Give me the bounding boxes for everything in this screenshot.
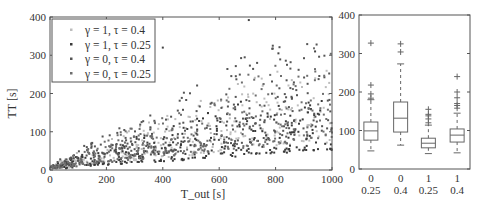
legend-marker-icon xyxy=(70,43,73,46)
category-label-tau: 0.4 xyxy=(394,184,408,196)
category-label-gamma: 1 xyxy=(454,172,460,184)
category-label-gamma: 0 xyxy=(398,172,404,184)
x-tick-label: 400 xyxy=(155,173,172,185)
box-plot: 00.2500.410.2510.40100200300400 xyxy=(339,9,471,196)
box xyxy=(421,106,435,153)
y-tick-label: 100 xyxy=(30,126,47,138)
legend-marker-icon xyxy=(70,29,73,32)
category-label-tau: 0.25 xyxy=(419,184,439,196)
outlier-marker-icon xyxy=(454,89,460,95)
legend-label: γ = 0, τ = 0.4 xyxy=(84,53,145,66)
outlier-marker-icon xyxy=(368,40,374,46)
outlier-marker-icon xyxy=(454,95,460,101)
outlier-marker-icon xyxy=(368,91,374,97)
legend-label: γ = 0, τ = 0.25 xyxy=(84,68,151,81)
x-tick-label: 0 xyxy=(47,173,53,185)
legend-marker-icon xyxy=(70,58,73,61)
box xyxy=(394,41,408,145)
legend-label: γ = 1, τ = 0.4 xyxy=(84,24,145,37)
y-tick-label: 200 xyxy=(30,88,47,100)
scatter-plot: 020040060080010000100200300400T_out [s]T… xyxy=(5,11,344,201)
x-tick-label: 600 xyxy=(211,173,228,185)
legend: γ = 1, τ = 0.4γ = 1, τ = 0.25γ = 0, τ = … xyxy=(52,19,155,82)
legend-label: γ = 1, τ = 0.25 xyxy=(84,39,151,52)
category-label-gamma: 1 xyxy=(426,172,432,184)
y-tick-label: 0 xyxy=(41,164,47,176)
y-tick-label: 0 xyxy=(350,163,356,175)
legend-marker-icon xyxy=(70,72,73,75)
y-tick-label: 300 xyxy=(339,48,356,60)
box xyxy=(450,74,464,153)
scatter-series xyxy=(49,70,333,170)
y-tick-label: 100 xyxy=(339,125,356,137)
category-label-tau: 0.4 xyxy=(450,184,464,196)
y-tick-label: 400 xyxy=(339,9,356,21)
x-tick-label: 800 xyxy=(267,173,284,185)
outlier-marker-icon xyxy=(454,74,460,80)
y-axis-label: TT [s] xyxy=(5,88,19,118)
category-label-gamma: 0 xyxy=(368,172,374,184)
y-tick-label: 300 xyxy=(30,49,47,61)
category-label-tau: 0.25 xyxy=(361,184,381,196)
x-tick-label: 200 xyxy=(98,173,115,185)
figure: 020040060080010000100200300400T_out [s]T… xyxy=(0,0,486,203)
box xyxy=(364,40,378,151)
box-axes-frame xyxy=(359,15,470,169)
x-axis-label: T_out [s] xyxy=(181,187,225,201)
outlier-marker-icon xyxy=(398,49,404,55)
outlier-marker-icon xyxy=(398,41,404,47)
y-tick-label: 400 xyxy=(30,11,47,23)
outlier-marker-icon xyxy=(425,106,431,112)
x-tick-label: 1000 xyxy=(321,173,344,185)
outlier-marker-icon xyxy=(368,82,374,88)
y-tick-label: 200 xyxy=(339,86,356,98)
